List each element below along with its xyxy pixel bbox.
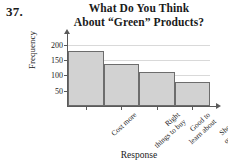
- x-axis-tick: [192, 106, 193, 110]
- plot-area: 50100150200: [68, 40, 210, 106]
- x-axis-category-label: Should bequestioned: [217, 111, 228, 145]
- gridline: [68, 45, 210, 46]
- category-label-line: Cost more: [109, 110, 138, 137]
- y-axis-arrow-icon: [64, 29, 70, 34]
- bar: [104, 64, 140, 106]
- y-axis-tick: [64, 45, 68, 46]
- chart-title: What Do You Think About “Green” Products…: [52, 2, 226, 29]
- x-axis-category-label: Good tolearn about: [181, 111, 217, 146]
- x-axis-tick: [86, 106, 87, 110]
- x-axis-category-label: Rightthings to buy: [147, 111, 187, 150]
- x-axis-title: Response: [68, 150, 210, 160]
- bar: [175, 82, 211, 106]
- y-axis-tick-label: 50: [41, 86, 63, 95]
- x-axis-line: [67, 106, 217, 107]
- bar: [139, 72, 175, 106]
- x-axis-category-label: Cost more: [110, 111, 139, 138]
- x-axis-arrow-icon: [216, 103, 221, 109]
- y-axis-tick-label: 200: [41, 40, 63, 49]
- chart-title-line-2: About “Green” Products?: [52, 16, 226, 30]
- problem-number: 37.: [6, 4, 23, 20]
- y-axis-tick-label: 100: [41, 71, 63, 80]
- chart-title-line-1: What Do You Think: [52, 2, 226, 16]
- y-axis-title: Frequency: [27, 20, 37, 80]
- bar: [68, 51, 104, 106]
- x-axis-tick: [121, 106, 122, 110]
- y-axis-tick-label: 150: [41, 55, 63, 64]
- x-axis-tick: [157, 106, 158, 110]
- figure-bar-chart: 37. What Do You Think About “Green” Prod…: [0, 0, 228, 168]
